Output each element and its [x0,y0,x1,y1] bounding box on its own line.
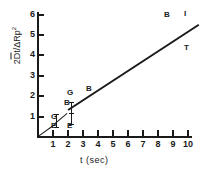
y-tick-3 [39,75,44,77]
y-axis-label-dbar: D [12,53,22,60]
x-tick-7 [142,130,144,136]
x-tick-6 [127,130,129,136]
fit-line-main [68,24,200,111]
x-tick-label-8: 8 [151,140,165,149]
x-tick-4 [97,130,99,136]
y-axis-label-exponent: 2 [11,27,17,30]
point-label-e-2: E [67,122,72,130]
y-tick-label-1: 1 [23,112,35,121]
x-tick-label-4: 4 [91,140,105,149]
y-tick-label-6: 6 [23,10,35,19]
x-tick-10 [187,130,189,136]
y-tick-5 [39,34,44,36]
x-axis [37,136,192,138]
error-bar-cap-b-2-mid [69,113,74,114]
x-tick-2 [67,130,69,136]
x-tick-label-10: 10 [181,140,195,149]
chart-figure: 1 2 3 4 5 6 1 2 3 4 5 6 7 8 9 10 2Dt/ΔRp… [0,0,200,173]
x-tick-label-3: 3 [76,140,90,149]
y-tick-4 [39,54,44,56]
x-tick-1 [52,130,54,136]
x-axis-label: t (sec) [80,155,109,165]
annotation-label-b: B [164,11,170,19]
point-label-g-1: G [51,113,57,121]
y-tick-2 [39,95,44,97]
x-tick-label-9: 9 [166,140,180,149]
y-tick-label-5: 5 [23,30,35,39]
x-tick-label-6: 6 [121,140,135,149]
annotation-label-t: T [184,44,189,52]
y-tick-1 [39,116,44,118]
y-tick-6 [39,14,44,16]
point-label-b-2: B [64,99,70,107]
point-label-e-1: E [51,122,56,130]
x-tick-label-7: 7 [136,140,150,149]
annotation-label-i: I [184,10,186,18]
point-label-g-2: G [67,89,73,97]
x-tick-label-1: 1 [46,140,60,149]
x-tick-8 [157,130,159,136]
y-tick-label-3: 3 [23,71,35,80]
y-axis-label-prefix: 2 [12,59,22,64]
y-axis-label-delta: ΔRp [12,30,22,48]
y-axis-label: 2Dt/ΔRp2 [11,0,22,94]
y-axis-label-slash: / [12,48,22,51]
x-tick-3 [82,130,84,136]
y-tick-label-2: 2 [23,91,35,100]
x-tick-label-5: 5 [106,140,120,149]
y-tick-label-4: 4 [23,50,35,59]
x-tick-9 [172,130,174,136]
x-tick-label-2: 2 [61,140,75,149]
x-tick-5 [112,130,114,136]
point-label-b-3: B [86,85,92,93]
